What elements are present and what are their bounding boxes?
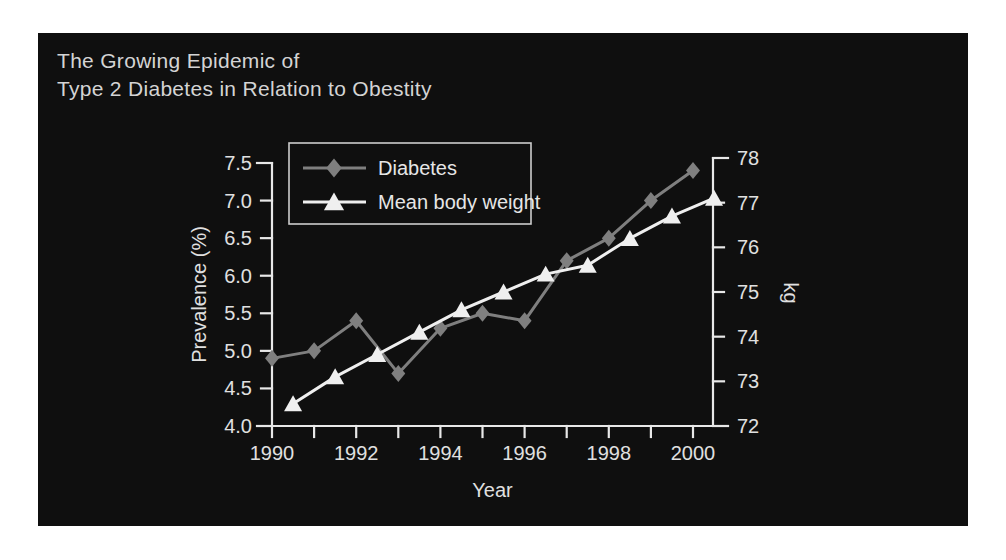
x-tick-label: 2000	[671, 442, 716, 464]
y-left-tick-label: 6.0	[224, 265, 252, 287]
y-left-tick-label: 5.0	[224, 340, 252, 362]
y-left-tick-label: 7.5	[224, 152, 252, 174]
y-right-tick-label: 78	[737, 147, 759, 169]
data-point-marker	[705, 190, 723, 206]
y-right-tick-label: 77	[737, 192, 759, 214]
data-point-marker	[686, 162, 700, 179]
y-left-tick-label: 4.5	[224, 377, 252, 399]
data-point-marker	[495, 284, 513, 300]
y-right-tick-label: 73	[737, 370, 759, 392]
diabetes-obesity-line-chart: 4.04.55.05.56.06.57.07.5Prevalence (%)72…	[0, 0, 1006, 560]
y-left-tick-label: 4.0	[224, 415, 252, 437]
x-tick-label: 1990	[250, 442, 295, 464]
y-left-tick-label: 7.0	[224, 190, 252, 212]
series-mean-body-weight	[284, 190, 723, 411]
data-point-marker	[452, 301, 470, 317]
y-left-axis-label: Prevalence (%)	[188, 226, 210, 363]
x-axis-label: Year	[472, 479, 513, 501]
data-point-marker	[663, 208, 681, 224]
data-point-marker	[476, 305, 490, 322]
x-tick-label: 1996	[502, 442, 547, 464]
data-point-marker	[410, 324, 428, 340]
y-right-tick-label: 75	[737, 281, 759, 303]
data-point-marker	[621, 230, 639, 246]
data-point-marker	[579, 257, 597, 273]
y-right-tick-label: 76	[737, 236, 759, 258]
x-tick-label: 1992	[334, 442, 379, 464]
y-left-tick-label: 5.5	[224, 302, 252, 324]
y-left-tick-label: 6.5	[224, 227, 252, 249]
legend-label: Diabetes	[378, 157, 457, 179]
x-tick-label: 1994	[418, 442, 463, 464]
data-point-marker	[284, 395, 302, 411]
figure-page: The Growing Epidemic of Type 2 Diabetes …	[0, 0, 1006, 560]
data-point-marker	[326, 368, 344, 384]
data-point-marker	[265, 350, 279, 367]
x-tick-label: 1998	[587, 442, 632, 464]
data-point-marker	[307, 342, 321, 359]
y-right-tick-label: 74	[737, 326, 759, 348]
legend-label: Mean body weight	[378, 191, 541, 213]
series-line	[293, 198, 714, 403]
y-right-tick-label: 72	[737, 415, 759, 437]
y-right-axis-label: kg	[780, 282, 802, 303]
legend-diamond-icon	[326, 159, 342, 178]
